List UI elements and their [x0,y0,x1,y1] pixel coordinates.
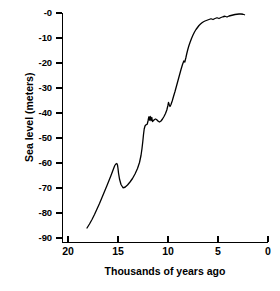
x-axis-tick-label: 0 [256,246,280,257]
y-axis-tick [56,37,62,38]
y-axis-tick-label: -0 [22,8,52,18]
sea-level-chart: -0-10-20-30-40-50-60-70-80-90 20151050 T… [0,0,280,291]
plot-area [0,0,280,291]
y-axis-tick [56,87,62,88]
y-axis-tick [56,137,62,138]
y-axis-tick-label: -90 [22,233,52,243]
y-axis-tick [56,187,62,188]
x-axis-tick-label: 10 [156,246,180,257]
x-axis-tick [67,236,68,242]
x-axis-tick-label: 15 [106,246,130,257]
y-axis-tick [56,112,62,113]
x-axis-tick [167,236,168,242]
x-axis-title: Thousands of years ago [62,266,268,277]
y-axis-tick [56,162,62,163]
y-axis-tick [56,62,62,63]
x-axis-tick-label: 20 [56,246,80,257]
y-axis-title: Sea level (meters) [24,42,35,192]
y-axis-tick [56,237,62,238]
x-axis-tick [117,236,118,242]
x-axis-tick-label: 5 [206,246,230,257]
y-axis-tick [56,12,62,13]
y-axis-tick-label: -80 [22,208,52,218]
x-axis-tick [217,236,218,242]
y-axis-tick [56,212,62,213]
x-axis-tick [267,236,268,242]
y-axis-tick-label: -10 [22,33,52,43]
sea-level-curve [87,14,245,228]
